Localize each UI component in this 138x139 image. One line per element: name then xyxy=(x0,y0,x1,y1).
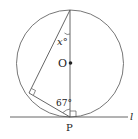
right-angle-mark-left xyxy=(32,89,36,96)
diagram-canvas: x° O 67° P l xyxy=(0,0,138,139)
center-dot xyxy=(69,61,73,65)
angle-67-label: 67° xyxy=(56,98,72,108)
right-angle-mark-p xyxy=(70,111,76,117)
point-p-label: P xyxy=(66,122,73,133)
center-label: O xyxy=(58,57,67,70)
geometry-diagram: x° O 67° P l xyxy=(0,0,138,139)
angle-arc-x xyxy=(65,33,71,35)
angle-arc-67 xyxy=(63,109,70,113)
line-l-label: l xyxy=(130,111,133,122)
angle-x-label: x° xyxy=(57,36,68,47)
